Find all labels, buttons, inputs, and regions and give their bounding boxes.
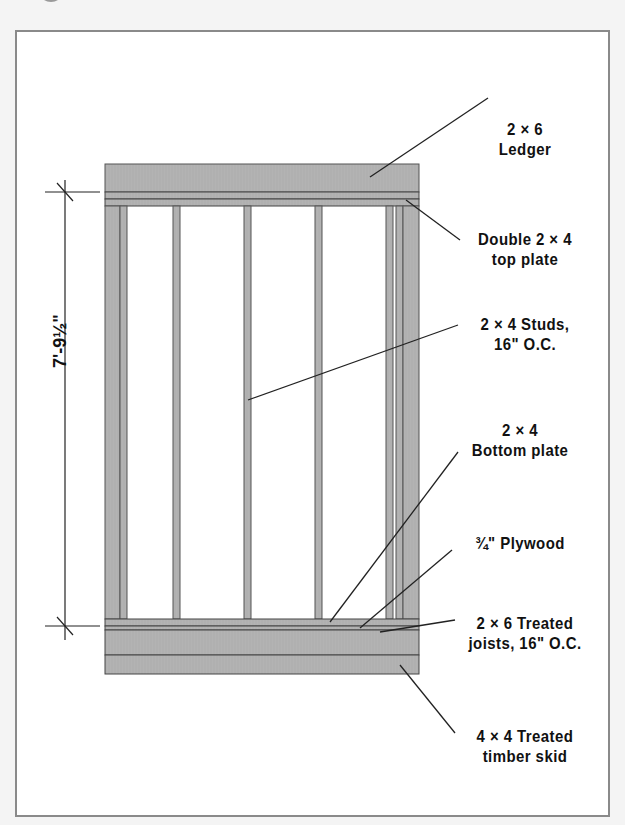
joists-label: 2 × 6 Treated joists, 16" O.C.: [455, 614, 596, 654]
skid-label: 4 × 4 Treated timber skid: [459, 727, 591, 767]
top-plate-label: Double 2 × 4 top plate: [459, 230, 591, 270]
stud: [386, 206, 393, 619]
studs-label: 2 × 4 Studs, 16" O.C.: [463, 315, 586, 355]
plywood-floor: [105, 626, 419, 630]
bottom-plate-label-line1: 2 × 4: [463, 421, 577, 441]
ledger-label-line2: Ledger: [477, 140, 574, 160]
stud: [173, 206, 180, 619]
ledger-label-line1: 2 × 6: [477, 120, 574, 140]
joists-label-line1: 2 × 6 Treated: [455, 614, 596, 634]
top-plate-label-line2: top plate: [459, 250, 591, 270]
top-plate-upper: [105, 192, 419, 199]
plywood-label: ¾" Plywood: [463, 534, 577, 554]
joists-label-line2: joists, 16" O.C.: [455, 634, 596, 654]
ledger-label: 2 × 6 Ledger: [477, 120, 574, 160]
studs-label-line2: 16" O.C.: [463, 335, 586, 355]
bottom-plate-label: 2 × 4 Bottom plate: [463, 421, 577, 461]
stud: [244, 206, 251, 619]
skid-label-line2: timber skid: [459, 747, 591, 767]
end-stud-left-outer: [105, 206, 120, 619]
studs-label-line1: 2 × 4 Studs,: [463, 315, 586, 335]
stud: [315, 206, 322, 619]
bottom-plate-label-line2: Bottom plate: [463, 441, 577, 461]
height-dimension-label: 7'-9½": [50, 314, 71, 368]
end-stud-right-inner: [396, 206, 403, 619]
end-stud-left-inner: [120, 206, 127, 619]
timber-skid: [105, 655, 419, 674]
plywood-label-line1: ¾" Plywood: [463, 534, 577, 554]
height-dimension: [45, 180, 100, 640]
ledger-board: [105, 164, 419, 192]
end-stud-right-outer: [403, 206, 419, 619]
bottom-plate: [105, 619, 419, 626]
top-plate-label-line1: Double 2 × 4: [459, 230, 591, 250]
skid-label-line1: 4 × 4 Treated: [459, 727, 591, 747]
top-plate-lower: [105, 199, 419, 206]
floor-joist: [105, 630, 419, 655]
